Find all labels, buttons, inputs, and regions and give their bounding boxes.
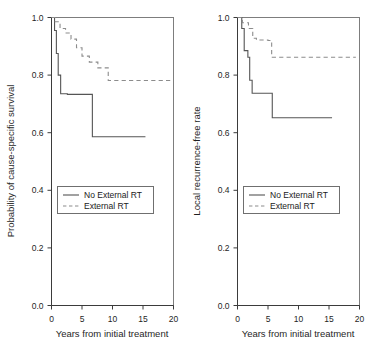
- y-tick-label: 0.2: [218, 243, 230, 253]
- y-tick-label: 0.6: [32, 128, 44, 138]
- y-ticklabels-left: 0.00.20.40.60.81.0: [32, 13, 44, 311]
- y-tick-label: 0.8: [218, 70, 230, 80]
- curve-no-external-rt-left: [52, 18, 146, 137]
- kaplan-meier-figure: 0.00.20.40.60.81.0 05101520 No External …: [0, 0, 372, 354]
- legend-label-external-rt-left: External RT: [84, 201, 129, 211]
- y-tick-label: 0.8: [32, 70, 44, 80]
- y-axis-left: 0.00.20.40.60.81.0: [32, 13, 52, 311]
- y-tick-label: 0.4: [218, 185, 230, 195]
- plot-svg-left: 0.00.20.40.60.81.0 05101520 No External …: [0, 0, 186, 354]
- x-tick-label: 5: [80, 314, 85, 324]
- y-tick-label: 1.0: [218, 13, 230, 23]
- curve-external-rt-right: [238, 18, 356, 58]
- x-tick-label: 15: [324, 314, 334, 324]
- x-axis-title-right: Years from initial treatment: [242, 328, 355, 339]
- x-tick-label: 20: [169, 314, 179, 324]
- x-axis-right: 05101520: [235, 306, 364, 324]
- x-tick-label: 5: [266, 314, 271, 324]
- x-tick-label: 10: [294, 314, 304, 324]
- curves-left: [52, 18, 172, 137]
- y-ticks-right: [234, 18, 238, 306]
- y-ticklabels-right: 0.00.20.40.60.81.0: [218, 13, 230, 311]
- x-ticklabels-right: 05101520: [235, 314, 364, 324]
- y-axis-right: 0.00.20.40.60.81.0: [218, 13, 238, 311]
- x-tick-label: 20: [355, 314, 365, 324]
- plot-frame-right: [238, 18, 360, 306]
- x-tick-label: 15: [138, 314, 148, 324]
- y-axis-title-left: Probability of cause-specific survival: [5, 85, 16, 238]
- x-axis-title-left: Years from initial treatment: [56, 328, 169, 339]
- legend-label-no-external-rt-left: No External RT: [84, 190, 142, 200]
- y-tick-label: 0.0: [218, 301, 230, 311]
- legend-right: No External RT External RT: [244, 187, 340, 214]
- x-tick-label: 10: [108, 314, 118, 324]
- plot-svg-right: 0.00.20.40.60.81.0 05101520 No External …: [186, 0, 372, 354]
- x-ticks-right: [238, 306, 360, 310]
- panel-local-recurrence-free-rate: 0.00.20.40.60.81.0 05101520 No External …: [186, 0, 372, 354]
- y-tick-label: 0.2: [32, 243, 44, 253]
- curve-no-external-rt-right: [238, 18, 333, 118]
- x-axis-left: 05101520: [49, 306, 178, 324]
- legend-left: No External RT External RT: [58, 187, 154, 214]
- y-tick-label: 0.4: [32, 185, 44, 195]
- panel-cause-specific-survival: 0.00.20.40.60.81.0 05101520 No External …: [0, 0, 186, 354]
- plot-frame-left: [52, 18, 174, 306]
- y-tick-label: 0.6: [218, 128, 230, 138]
- legend-label-external-rt-right: External RT: [270, 201, 315, 211]
- y-tick-label: 1.0: [32, 13, 44, 23]
- y-axis-title-right: Local recurrence-free rate: [191, 106, 202, 215]
- curves-right: [238, 18, 356, 118]
- y-tick-label: 0.0: [32, 301, 44, 311]
- x-ticklabels-left: 05101520: [49, 314, 178, 324]
- legend-label-no-external-rt-right: No External RT: [270, 190, 328, 200]
- curve-external-rt-left: [52, 18, 172, 81]
- y-ticks-left: [48, 18, 52, 306]
- x-tick-label: 0: [235, 314, 240, 324]
- x-ticks-left: [52, 306, 174, 310]
- x-tick-label: 0: [49, 314, 54, 324]
